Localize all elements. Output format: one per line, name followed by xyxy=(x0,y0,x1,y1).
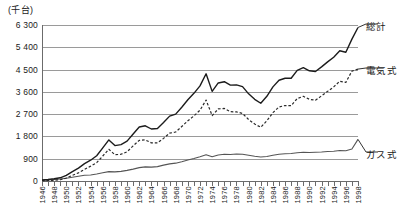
x-tick-label-1950: 1950 xyxy=(62,186,71,204)
x-tick-label-1968: 1968 xyxy=(172,186,181,204)
y-tick-label-900: 900 xyxy=(23,154,38,164)
x-tick-label-1946: 1946 xyxy=(38,186,47,204)
x-tick-label-1972: 1972 xyxy=(196,186,205,204)
series-lines xyxy=(42,25,358,181)
x-axis-tick-labels: 1946194819501952195419561958196019621964… xyxy=(0,186,414,224)
chart-container: (千台) 09001 8002 7003 6004 5005 4006 300 … xyxy=(0,0,414,224)
x-tick-label-1976: 1976 xyxy=(220,186,229,204)
x-tick-label-1970: 1970 xyxy=(184,186,193,204)
series-line-gas xyxy=(42,139,358,180)
series-label-gas: ガス式 xyxy=(366,147,397,161)
x-tick-label-1974: 1974 xyxy=(208,186,217,204)
x-tick-label-1964: 1964 xyxy=(147,186,156,204)
x-tick-label-1980: 1980 xyxy=(245,186,254,204)
x-tick-label-1988: 1988 xyxy=(293,186,302,204)
x-tick-label-1994: 1994 xyxy=(330,186,339,204)
x-tick-label-1998: 1998 xyxy=(354,186,363,204)
x-tick-label-1990: 1990 xyxy=(305,186,314,204)
x-tick-label-1966: 1966 xyxy=(160,186,169,204)
x-tick-label-1978: 1978 xyxy=(232,186,241,204)
x-tick-label-1956: 1956 xyxy=(99,186,108,204)
y-tick-label-3600: 3 600 xyxy=(16,87,38,97)
x-tick-label-1958: 1958 xyxy=(111,186,120,204)
y-tick-label-5400: 5 400 xyxy=(16,42,38,52)
series-label-total: 総計 xyxy=(366,19,387,33)
x-tick-label-1948: 1948 xyxy=(50,186,59,204)
y-tick-label-6300: 6 300 xyxy=(16,20,38,30)
x-tick-label-1954: 1954 xyxy=(87,186,96,204)
x-tick-label-1996: 1996 xyxy=(342,186,351,204)
y-tick-label-4500: 4 500 xyxy=(16,65,38,75)
y-tick-label-0: 0 xyxy=(33,176,38,186)
x-tick-label-1960: 1960 xyxy=(123,186,132,204)
x-tick-label-1952: 1952 xyxy=(74,186,83,204)
x-tick-label-1982: 1982 xyxy=(257,186,266,204)
y-tick-label-1800: 1 800 xyxy=(16,131,38,141)
x-tick-label-1984: 1984 xyxy=(269,186,278,204)
x-tick-label-1986: 1986 xyxy=(281,186,290,204)
y-tick-label-2700: 2 700 xyxy=(16,109,38,119)
x-tick-label-1962: 1962 xyxy=(135,186,144,204)
x-tick-label-1992: 1992 xyxy=(318,186,327,204)
series-label-electric: 電気式 xyxy=(366,63,397,77)
